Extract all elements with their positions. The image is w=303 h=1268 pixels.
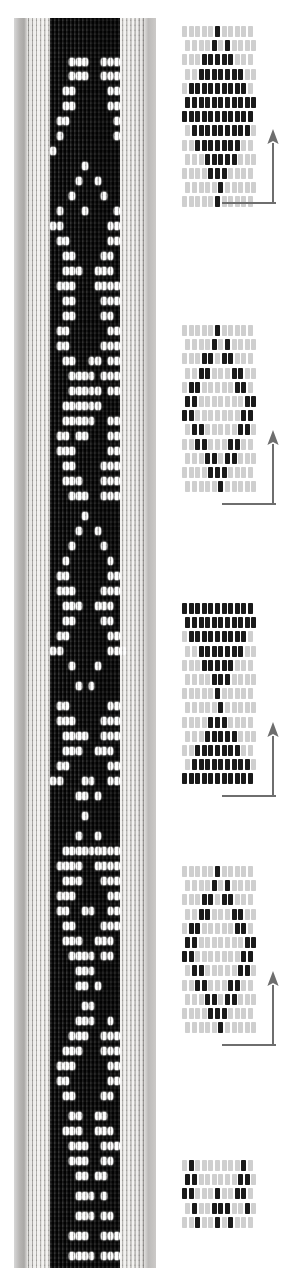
draft-cell-filled xyxy=(235,439,240,450)
draft-cell-filled xyxy=(215,660,220,671)
draft-cell-filled xyxy=(208,773,213,784)
draft-cell-filled xyxy=(235,631,240,642)
draft-cell-filled xyxy=(245,125,250,136)
draft-cell-empty xyxy=(222,382,227,393)
draft-cell-filled xyxy=(215,688,220,699)
draft-cell-filled xyxy=(208,745,213,756)
draft-cell-filled xyxy=(241,111,246,122)
draft-cell-empty xyxy=(232,880,237,891)
draft-cell-empty xyxy=(251,880,256,891)
draft-cell-filled xyxy=(192,1174,197,1185)
draft-cell-filled xyxy=(192,396,197,407)
draft-cell-filled xyxy=(228,1217,233,1228)
draft-cell-filled xyxy=(218,182,223,193)
draft-cell-empty xyxy=(241,467,246,478)
draft-cell-filled xyxy=(222,111,227,122)
draft-cell-filled xyxy=(218,69,223,80)
draft-cell-filled xyxy=(202,140,207,151)
draft-cell-empty xyxy=(218,453,223,464)
draft-cell-empty xyxy=(202,1188,207,1199)
draft-cell-empty xyxy=(202,951,207,962)
draft-cell-empty xyxy=(238,396,243,407)
draft-cell-filled xyxy=(208,717,213,728)
draft-cell-filled xyxy=(208,660,213,671)
draft-cell-filled xyxy=(215,631,220,642)
draft-cell-empty xyxy=(212,1022,217,1033)
draft-cell-empty xyxy=(241,688,246,699)
draft-cell-empty xyxy=(182,140,187,151)
draft-cell-filled xyxy=(189,631,194,642)
draft-cell-empty xyxy=(251,125,256,136)
draft-cell-filled xyxy=(195,603,200,614)
draft-cell-empty xyxy=(225,1022,230,1033)
draft-cell-empty xyxy=(251,759,256,770)
draft-cell-filled xyxy=(195,631,200,642)
draft-cell-empty xyxy=(225,481,230,492)
draft-cell-empty xyxy=(215,980,220,991)
draft-cell-empty xyxy=(199,1174,204,1185)
draft-cell-filled xyxy=(225,674,230,685)
pattern-draft-diagrams xyxy=(176,0,303,1268)
draft-cell-filled xyxy=(208,467,213,478)
draft-cell-empty xyxy=(189,26,194,37)
draft-cell-empty xyxy=(248,660,253,671)
draft-cell-empty xyxy=(192,702,197,713)
draft-cell-empty xyxy=(248,1008,253,1019)
draft-cell-empty xyxy=(235,1217,240,1228)
draft-cell-empty xyxy=(202,1008,207,1019)
draft-cell-filled xyxy=(205,453,210,464)
draft-cell-filled xyxy=(205,97,210,108)
draft-cell-empty xyxy=(228,382,233,393)
draft-cell-empty xyxy=(205,396,210,407)
draft-cell-empty xyxy=(189,688,194,699)
draft-cell-empty xyxy=(232,937,237,948)
draft-block-5 xyxy=(176,1160,303,1261)
draft-cell-filled xyxy=(215,773,220,784)
draft-cell-filled xyxy=(222,140,227,151)
draft-cell-filled xyxy=(205,368,210,379)
draft-cell-filled xyxy=(235,923,240,934)
draft-cell-empty xyxy=(238,674,243,685)
draft-cell-empty xyxy=(248,1188,253,1199)
draft-cell-filled xyxy=(208,83,213,94)
draft-cell-empty xyxy=(225,965,230,976)
draft-cell-empty xyxy=(228,688,233,699)
draft-cell-filled xyxy=(215,196,220,207)
draft-cell-empty xyxy=(185,368,190,379)
draft-cell-empty xyxy=(251,182,256,193)
draft-cell-empty xyxy=(225,1174,230,1185)
draft-cell-filled xyxy=(212,994,217,1005)
draft-cell-filled xyxy=(218,481,223,492)
draft-cell-filled xyxy=(245,396,250,407)
draft-cell-filled xyxy=(208,353,213,364)
draft-cell-empty xyxy=(182,1008,187,1019)
draft-cell-empty xyxy=(195,196,200,207)
draft-cell-filled xyxy=(182,603,187,614)
draft-cell-filled xyxy=(192,424,197,435)
draft-cell-empty xyxy=(248,1160,253,1171)
draft-cell-empty xyxy=(222,688,227,699)
draft-cell-empty xyxy=(225,182,230,193)
draft-cell-filled xyxy=(212,125,217,136)
draft-cell-empty xyxy=(238,453,243,464)
draft-cell-empty xyxy=(215,410,220,421)
draft-cell-empty xyxy=(248,688,253,699)
draft-cell-empty xyxy=(202,410,207,421)
draft-cell-filled xyxy=(208,631,213,642)
draft-cell-filled xyxy=(199,909,204,920)
draft-cell-empty xyxy=(199,1022,204,1033)
draft-cell-empty xyxy=(199,154,204,165)
draft-cell-filled xyxy=(218,702,223,713)
draft-cell-empty xyxy=(195,353,200,364)
draft-cell-filled xyxy=(212,731,217,742)
draft-cell-empty xyxy=(218,880,223,891)
draft-cell-empty xyxy=(235,168,240,179)
draft-cell-filled xyxy=(241,603,246,614)
draft-cell-empty xyxy=(185,424,190,435)
draft-cell-empty xyxy=(251,909,256,920)
draft-cell-empty xyxy=(185,731,190,742)
draft-cell-empty xyxy=(208,325,213,336)
draft-cell-filled xyxy=(235,773,240,784)
draft-cell-empty xyxy=(238,1203,243,1214)
draft-cell-empty xyxy=(208,1160,213,1171)
